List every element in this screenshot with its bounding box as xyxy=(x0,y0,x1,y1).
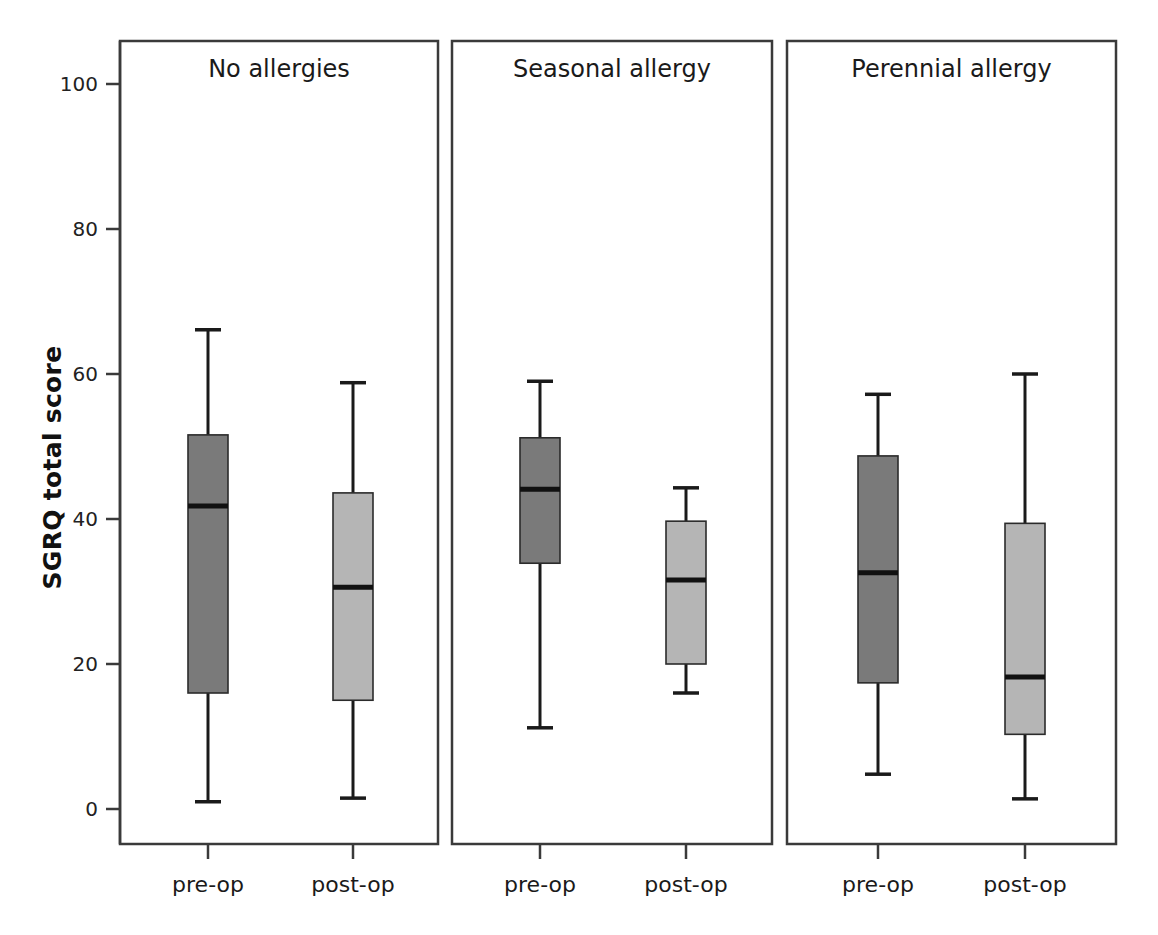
box-iqr xyxy=(858,456,898,683)
y-axis-tick-label: 0 xyxy=(85,797,98,821)
box-plot-post-op xyxy=(333,383,373,798)
panel-frame xyxy=(452,41,772,844)
panel-title: Perennial allergy xyxy=(851,55,1051,83)
x-axis-tick-label: post-op xyxy=(311,872,394,897)
y-axis-tick-label: 20 xyxy=(73,652,98,676)
box-iqr xyxy=(188,435,228,693)
y-axis-tick-label: 80 xyxy=(73,217,98,241)
x-axis-tick-label: post-op xyxy=(644,872,727,897)
box-plot-post-op xyxy=(666,488,706,693)
plot-canvas: 020406080100No allergiespre-oppost-opSea… xyxy=(0,0,1158,935)
box-iqr xyxy=(1005,523,1045,734)
boxplot-figure: SGRQ total score 020406080100No allergie… xyxy=(0,0,1158,935)
box-plot-pre-op xyxy=(520,381,560,728)
box-plot-pre-op xyxy=(858,394,898,774)
x-axis-tick-label: pre-op xyxy=(504,872,576,897)
panel-title: No allergies xyxy=(208,55,350,83)
x-axis-tick-label: pre-op xyxy=(172,872,244,897)
panel-frame xyxy=(787,41,1116,844)
panel-title: Seasonal allergy xyxy=(513,55,711,83)
box-iqr xyxy=(520,438,560,563)
panel-frame xyxy=(120,41,438,844)
y-axis-tick-label: 100 xyxy=(60,72,98,96)
box-plot-post-op xyxy=(1005,374,1045,799)
x-axis-tick-label: pre-op xyxy=(842,872,914,897)
box-plot-pre-op xyxy=(188,330,228,802)
y-axis-tick-label: 60 xyxy=(73,362,98,386)
y-axis-tick-label: 40 xyxy=(73,507,98,531)
box-iqr xyxy=(666,521,706,664)
x-axis-tick-label: post-op xyxy=(983,872,1066,897)
box-iqr xyxy=(333,493,373,700)
